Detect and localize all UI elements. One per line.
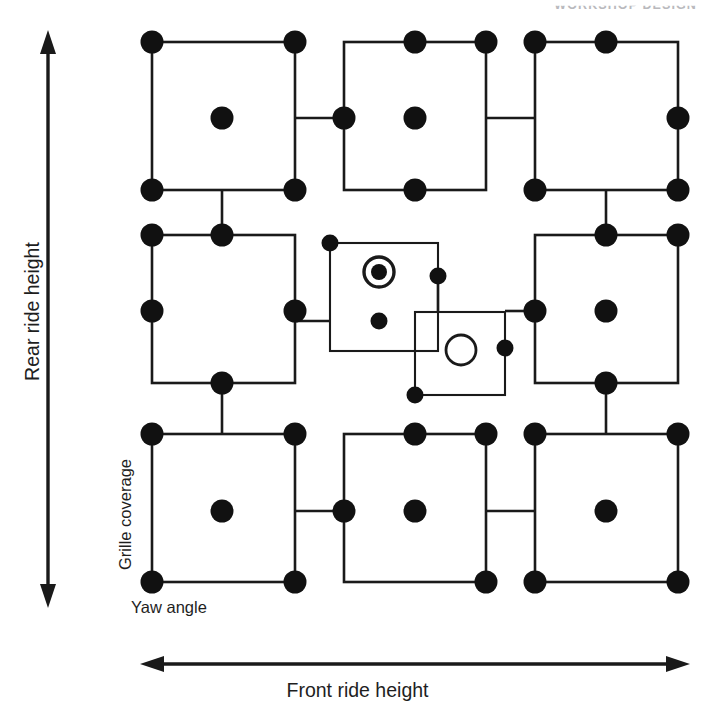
- design-point-filled: [475, 571, 498, 594]
- design-point-filled: [284, 571, 307, 594]
- design-point-filled: [141, 571, 164, 594]
- design-point-filled: [404, 179, 427, 202]
- design-point-filled: [524, 300, 547, 323]
- design-point-filled: [595, 31, 618, 54]
- design-point-filled-small: [371, 313, 388, 330]
- x-axis-label: Front ride height: [0, 679, 715, 702]
- design-point-bullseye-core: [371, 264, 387, 280]
- design-square-top-right: [535, 42, 678, 190]
- design-point-filled: [524, 31, 547, 54]
- design-point-filled: [475, 423, 498, 446]
- design-point-filled: [141, 179, 164, 202]
- design-point-filled: [404, 500, 427, 523]
- doe-diagram-canvas: [0, 0, 715, 722]
- design-point-filled: [211, 107, 234, 130]
- design-point-filled: [333, 107, 356, 130]
- design-point-filled: [284, 300, 307, 323]
- design-point-filled-small: [322, 235, 339, 252]
- y-axis-label: Rear ride height: [21, 217, 44, 407]
- design-point-filled: [141, 423, 164, 446]
- design-point-filled: [595, 224, 618, 247]
- design-point-filled: [667, 423, 690, 446]
- design-point-filled: [284, 31, 307, 54]
- design-point-filled: [141, 224, 164, 247]
- design-point-filled: [141, 300, 164, 323]
- inner-y-axis-label: Grille coverage: [116, 425, 135, 605]
- design-point-filled: [595, 372, 618, 395]
- design-point-filled: [595, 300, 618, 323]
- design-point-filled: [667, 179, 690, 202]
- design-point-filled-small: [407, 387, 424, 404]
- design-point-filled: [524, 423, 547, 446]
- design-point-filled: [475, 31, 498, 54]
- design-point-filled: [284, 423, 307, 446]
- design-point-filled-small: [430, 268, 447, 285]
- design-point-filled: [211, 500, 234, 523]
- design-point-filled: [211, 224, 234, 247]
- design-point-filled: [667, 571, 690, 594]
- x-axis-arrow: [140, 656, 690, 672]
- design-point-filled: [595, 500, 618, 523]
- design-point-filled: [333, 500, 356, 523]
- design-point-filled: [524, 179, 547, 202]
- design-point-filled: [404, 31, 427, 54]
- design-point-filled: [141, 31, 164, 54]
- figure-root: WORKSHOP DESIGN Rear ride height Front r…: [0, 0, 715, 722]
- design-point-open: [446, 335, 476, 365]
- design-point-filled: [667, 107, 690, 130]
- design-square-middle-left: [152, 235, 295, 383]
- inner-x-axis-label: Yaw angle: [131, 598, 207, 617]
- design-point-filled: [404, 107, 427, 130]
- design-point-filled: [404, 423, 427, 446]
- design-point-filled: [667, 224, 690, 247]
- design-point-filled-small: [497, 340, 514, 357]
- design-point-filled: [524, 571, 547, 594]
- design-point-filled: [284, 179, 307, 202]
- design-point-filled: [211, 372, 234, 395]
